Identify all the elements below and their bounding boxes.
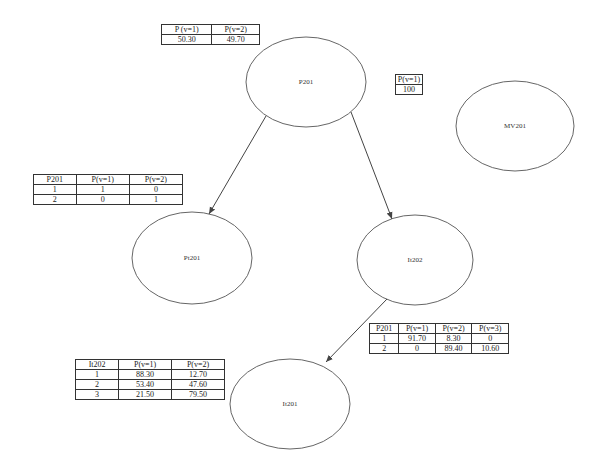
edge-p201-it202 [351,112,392,219]
table-header: It202 [76,360,119,370]
table-cell: 12.70 [172,370,225,380]
table-cell: 49.70 [212,35,260,45]
it201-cpt-table: It202 P(v=1) P(v=2) 1 88.30 12.70 2 53.4… [75,359,225,400]
node-label-p201: P201 [299,78,313,86]
table-cell: 91.70 [399,334,436,344]
table-cell: 10.60 [472,344,509,354]
table-cell: 89.40 [435,344,472,354]
table-cell: 47.60 [172,380,225,390]
table-cell: 2 [34,195,77,205]
table-cell: 88.30 [119,370,172,380]
table-header: P(v=1) [76,175,129,185]
table-cell: 2 [76,380,119,390]
table-cell: 79.50 [172,390,225,400]
table-cell: 0 [472,334,509,344]
table-cell: 1 [34,185,77,195]
table-cell: 8.30 [435,334,472,344]
table-cell: 0 [399,344,436,354]
table-cell: 3 [76,390,119,400]
table-cell: 1 [370,334,399,344]
table-header: P(v=1) [119,360,172,370]
pt201-cpt-table: P201 P(v=1) P(v=2) 1 1 0 2 0 1 [33,174,183,205]
p201-prior-table: P (v=1) P(v=2) 50.30 49.70 [161,24,260,45]
table-header: P201 [34,175,77,185]
table-cell: 1 [129,195,182,205]
table-cell: 1 [76,370,119,380]
table-header: P(v=2) [435,324,472,334]
mv201-prior-table: P(v=1) 100 [395,74,423,95]
table-cell: 2 [370,344,399,354]
table-header: P(v=2) [129,175,182,185]
table-cell: 50.30 [162,35,212,45]
table-header: P(v=1) [396,75,423,85]
node-label-it202: It202 [408,256,423,264]
table-header: P(v=2) [212,25,260,35]
table-header: P(v=3) [472,324,509,334]
table-header: P201 [370,324,399,334]
table-cell: 0 [129,185,182,195]
node-label-mv201: MV201 [504,122,526,130]
table-cell: 1 [76,185,129,195]
node-label-pt201: Pt201 [184,254,200,262]
table-cell: 100 [396,85,423,95]
table-header: P(v=1) [399,324,436,334]
it202-cpt-table: P201 P(v=1) P(v=2) P(v=3) 1 91.70 8.30 0… [369,323,509,354]
table-header: P (v=1) [162,25,212,35]
table-cell: 0 [76,195,129,205]
table-cell: 53.40 [119,380,172,390]
table-cell: 21.50 [119,390,172,400]
node-label-it201: It201 [283,400,298,408]
table-header: P(v=2) [172,360,225,370]
edge-p201-pt201 [209,116,266,214]
